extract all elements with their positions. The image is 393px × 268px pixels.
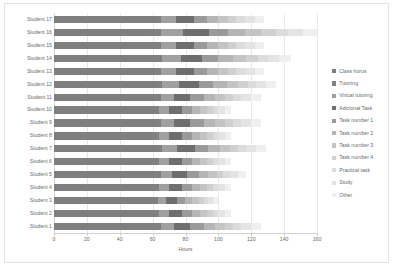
bar-segment[interactable] bbox=[207, 42, 219, 49]
bar-segment[interactable] bbox=[228, 68, 236, 75]
bar-segment[interactable] bbox=[172, 171, 187, 178]
bar-segment[interactable] bbox=[218, 42, 228, 49]
bar-segment[interactable] bbox=[199, 81, 214, 88]
bar-segment[interactable] bbox=[54, 223, 153, 230]
bar-segment[interactable] bbox=[159, 210, 169, 217]
bar-segment[interactable] bbox=[255, 68, 265, 75]
bar-row[interactable] bbox=[54, 171, 317, 178]
bar-segment[interactable] bbox=[268, 55, 280, 62]
bar-segment[interactable] bbox=[54, 132, 153, 139]
bar-segment[interactable] bbox=[207, 68, 219, 75]
bar-segment[interactable] bbox=[158, 197, 166, 204]
bar-segment[interactable] bbox=[161, 223, 174, 230]
bar-segment[interactable] bbox=[153, 16, 161, 23]
bar-segment[interactable] bbox=[236, 68, 244, 75]
bar-segment[interactable] bbox=[54, 94, 153, 101]
bar-segment[interactable] bbox=[153, 81, 163, 88]
bar-segment[interactable] bbox=[225, 210, 232, 217]
bar-segment[interactable] bbox=[169, 184, 182, 191]
bar-segment[interactable] bbox=[248, 81, 256, 88]
bar-row[interactable] bbox=[54, 106, 317, 113]
bar-segment[interactable] bbox=[176, 16, 194, 23]
bar-segment[interactable] bbox=[246, 55, 258, 62]
bar-segment[interactable] bbox=[233, 94, 241, 101]
bar-segment[interactable] bbox=[245, 68, 255, 75]
bar-segment[interactable] bbox=[54, 119, 153, 126]
bar-segment[interactable] bbox=[218, 55, 233, 62]
bar-segment[interactable] bbox=[241, 119, 251, 126]
legend-item[interactable]: Task number 4 bbox=[332, 152, 392, 164]
legend-item[interactable]: Class horus bbox=[332, 65, 392, 77]
legend-item[interactable]: Study bbox=[332, 177, 392, 189]
bar-segment[interactable] bbox=[183, 29, 209, 36]
bar-segment[interactable] bbox=[162, 81, 178, 88]
bar-segment[interactable] bbox=[255, 16, 265, 23]
bar-segment[interactable] bbox=[218, 68, 228, 75]
bar-segment[interactable] bbox=[213, 81, 226, 88]
bar-segment[interactable] bbox=[266, 81, 276, 88]
bar-segment[interactable] bbox=[166, 197, 178, 204]
bar-row[interactable] bbox=[54, 81, 317, 88]
bar-segment[interactable] bbox=[233, 55, 246, 62]
bar-segment[interactable] bbox=[159, 106, 169, 113]
bar-segment[interactable] bbox=[54, 197, 153, 204]
bar-segment[interactable] bbox=[182, 184, 192, 191]
bar-segment[interactable] bbox=[192, 106, 200, 113]
bar-segment[interactable] bbox=[54, 145, 153, 152]
bar-segment[interactable] bbox=[207, 16, 219, 23]
bar-segment[interactable] bbox=[192, 184, 200, 191]
bar-segment[interactable] bbox=[161, 68, 176, 75]
bar-segment[interactable] bbox=[177, 145, 195, 152]
bar-segment[interactable] bbox=[228, 29, 246, 36]
bar-segment[interactable] bbox=[208, 145, 220, 152]
bar-segment[interactable] bbox=[195, 145, 208, 152]
bar-segment[interactable] bbox=[251, 94, 261, 101]
bar-row[interactable] bbox=[54, 145, 317, 152]
legend-item[interactable]: Task number 2 bbox=[332, 127, 392, 139]
bar-segment[interactable] bbox=[199, 171, 209, 178]
bar-segment[interactable] bbox=[225, 119, 233, 126]
bar-segment[interactable] bbox=[190, 94, 203, 101]
bar-segment[interactable] bbox=[54, 81, 153, 88]
bar-segment[interactable] bbox=[159, 132, 169, 139]
bar-segment[interactable] bbox=[215, 223, 225, 230]
bar-segment[interactable] bbox=[161, 42, 176, 49]
bar-segment[interactable] bbox=[233, 119, 241, 126]
bar-segment[interactable] bbox=[230, 171, 238, 178]
bar-segment[interactable] bbox=[181, 55, 202, 62]
bar-row[interactable] bbox=[54, 197, 317, 204]
bar-segment[interactable] bbox=[255, 42, 265, 49]
bar-segment[interactable] bbox=[279, 55, 291, 62]
bar-segment[interactable] bbox=[162, 145, 177, 152]
bar-row[interactable] bbox=[54, 158, 317, 165]
bar-segment[interactable] bbox=[54, 29, 150, 36]
bar-row[interactable] bbox=[54, 184, 317, 191]
bar-segment[interactable] bbox=[204, 94, 216, 101]
bar-segment[interactable] bbox=[54, 42, 153, 49]
bar-segment[interactable] bbox=[169, 210, 182, 217]
bar-segment[interactable] bbox=[174, 119, 190, 126]
legend-item[interactable]: Task number 3 bbox=[332, 139, 392, 151]
bar-segment[interactable] bbox=[182, 132, 192, 139]
bar-segment[interactable] bbox=[153, 42, 161, 49]
bar-segment[interactable] bbox=[236, 16, 244, 23]
bar-segment[interactable] bbox=[153, 94, 161, 101]
bar-row[interactable] bbox=[54, 132, 317, 139]
bar-segment[interactable] bbox=[153, 55, 163, 62]
bar-row[interactable] bbox=[54, 55, 317, 62]
bar-segment[interactable] bbox=[169, 106, 182, 113]
legend-item[interactable]: Adicional Task bbox=[332, 102, 392, 114]
legend-item[interactable]: Tutoring bbox=[332, 77, 392, 89]
bar-segment[interactable] bbox=[176, 68, 194, 75]
bar-segment[interactable] bbox=[256, 145, 266, 152]
bar-segment[interactable] bbox=[190, 119, 203, 126]
bar-segment[interactable] bbox=[153, 171, 161, 178]
bar-segment[interactable] bbox=[202, 55, 218, 62]
bar-segment[interactable] bbox=[162, 55, 180, 62]
bar-segment[interactable] bbox=[54, 171, 153, 178]
bar-segment[interactable] bbox=[238, 171, 246, 178]
bar-segment[interactable] bbox=[174, 223, 190, 230]
bar-segment[interactable] bbox=[194, 42, 207, 49]
bar-segment[interactable] bbox=[245, 29, 261, 36]
bar-segment[interactable] bbox=[225, 158, 232, 165]
